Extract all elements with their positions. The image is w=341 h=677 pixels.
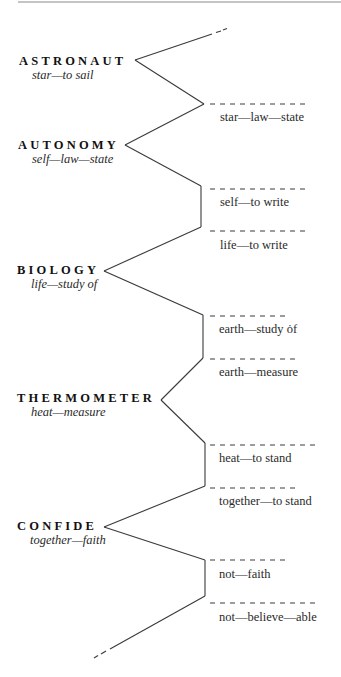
branch-label: star—law—state — [220, 111, 304, 124]
word-confide: CONFIDE — [17, 520, 97, 533]
gloss-biology: life—study of — [31, 278, 97, 291]
branch-label: self—to write — [220, 196, 289, 209]
dashed-guides — [210, 104, 320, 603]
branch-label: earth—measure — [219, 366, 298, 379]
word-astronaut: ASTRONAUT — [19, 55, 126, 68]
gloss-autonomy: self—law—state — [32, 153, 113, 166]
word-chain-diagram — [0, 0, 341, 677]
word-biology: BIOLOGY — [17, 264, 99, 277]
gloss-thermometer: heat—measure — [31, 406, 106, 419]
word-thermometer: THERMOMETER — [17, 392, 155, 405]
branch-label: heat—to stand — [219, 452, 292, 465]
branch-label: together—to stand — [219, 495, 312, 508]
branch-label: not—believe—able — [219, 611, 317, 624]
branch-label: earth—study ȯf — [219, 323, 297, 336]
branch-label: not—faith — [219, 568, 270, 581]
connector-lines — [94, 29, 227, 659]
word-autonomy: AUTONOMY — [18, 139, 119, 152]
gloss-confide: together—faith — [30, 534, 106, 547]
gloss-astronaut: star—to sail — [32, 69, 93, 82]
branch-label: life—to write — [220, 239, 288, 252]
